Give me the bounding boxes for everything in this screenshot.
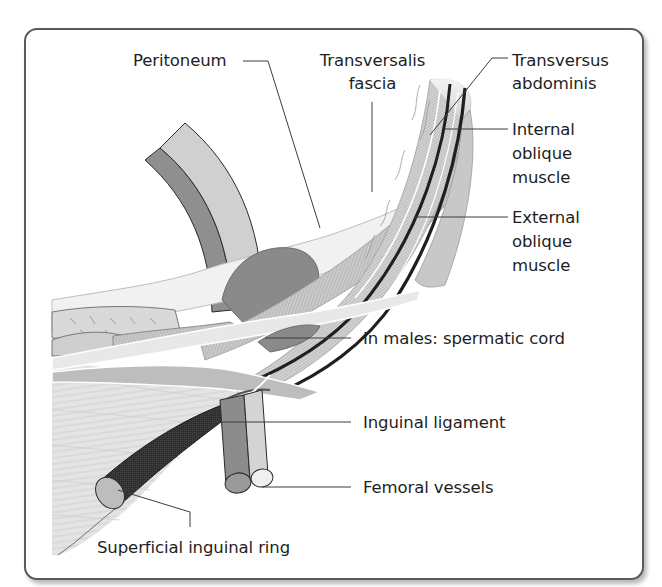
label-internal-oblique-line2: oblique <box>512 141 572 166</box>
label-internal-oblique-line3: muscle <box>512 165 570 190</box>
label-transversalis-fascia-line2: fascia <box>315 71 430 96</box>
label-transversus-abdominis-line2: abdominis <box>512 71 597 96</box>
label-peritoneum: Peritoneum <box>133 48 227 73</box>
label-inguinal-ligament: Inguinal ligament <box>363 410 505 435</box>
label-transversalis-fascia-line1: Transversalis <box>315 48 430 73</box>
leader-peritoneum <box>243 61 320 228</box>
label-internal-oblique-line1: Internal <box>512 117 575 142</box>
label-external-oblique-line2: oblique <box>512 229 572 254</box>
label-spermatic-cord: In males: spermatic cord <box>363 326 565 351</box>
label-superficial-inguinal-ring: Superficial inguinal ring <box>97 535 290 560</box>
label-external-oblique-line1: External <box>512 205 580 230</box>
label-transversus-abdominis-line1: Transversus <box>512 48 609 73</box>
label-external-oblique-line3: muscle <box>512 253 570 278</box>
label-femoral-vessels: Femoral vessels <box>363 475 494 500</box>
